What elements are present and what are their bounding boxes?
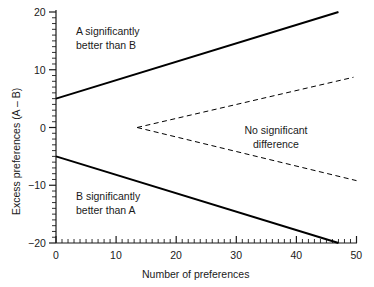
x-tick-label: 30	[230, 249, 242, 261]
annotation-a-better: A significantly better than B	[76, 25, 140, 52]
x-tick-label: 0	[53, 249, 59, 261]
series-line-2	[137, 77, 353, 127]
annotation-b-better: B significantly better than A	[76, 190, 140, 217]
y-axis-ticks	[49, 12, 56, 243]
chart-container: Excess preferences (A – B) Number of pre…	[0, 0, 374, 287]
y-tick-label: 20	[34, 6, 46, 18]
x-axis-label: Number of preferences	[142, 268, 249, 280]
y-axis-label: Excess preferences (A – B)	[10, 88, 22, 215]
y-tick-label: −10	[28, 179, 46, 191]
annotation-no-difference: No significant difference	[244, 124, 307, 151]
plot-area	[0, 0, 374, 287]
x-tick-label: 10	[110, 249, 122, 261]
y-tick-label: −20	[28, 237, 46, 249]
x-tick-label: 50	[351, 249, 363, 261]
x-axis-ticks	[56, 236, 357, 243]
y-tick-label: 0	[40, 122, 46, 134]
x-tick-label: 40	[290, 249, 302, 261]
x-tick-label: 20	[170, 249, 182, 261]
y-tick-label: 10	[34, 64, 46, 76]
